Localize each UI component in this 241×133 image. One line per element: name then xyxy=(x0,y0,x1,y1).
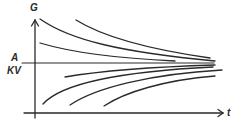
curve-below-4 xyxy=(104,76,215,106)
asymptote-label-denominator: KV xyxy=(7,66,21,76)
asymptote-label-numerator: A xyxy=(11,53,18,63)
curve-below-1 xyxy=(65,65,215,77)
y-axis-label: G xyxy=(30,3,38,13)
x-axis-label: t xyxy=(227,108,230,118)
convergence-diagram xyxy=(0,0,241,133)
